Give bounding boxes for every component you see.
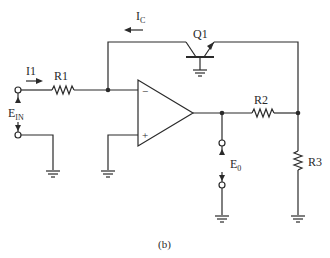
ic-current-label: IC — [136, 9, 145, 25]
svg-text:EIN: EIN — [8, 106, 24, 122]
feedback-wire — [108, 42, 298, 113]
circuit-diagram: IC Q1 I1 R1 EIN — [0, 0, 330, 258]
resistor-r2: R2 — [252, 93, 298, 117]
figure-caption: (b) — [158, 238, 171, 251]
q1-label: Q1 — [193, 27, 208, 41]
r1-label: R1 — [54, 69, 68, 83]
ein-voltage-label: EIN — [8, 93, 53, 170]
ground-icon — [215, 216, 229, 222]
svg-text:E0: E0 — [230, 157, 241, 173]
svg-text:IC: IC — [136, 9, 145, 25]
ground-icon — [291, 216, 305, 222]
plus-input-wire — [108, 135, 138, 170]
op-amp: − + — [138, 80, 193, 146]
svg-text:I1: I1 — [26, 64, 36, 78]
r3-label: R3 — [308, 155, 322, 169]
resistor-r3: R3 — [294, 113, 322, 215]
ground-icon — [46, 171, 60, 177]
e0-voltage-label: E0 — [219, 113, 241, 215]
i1-current-label: I1 — [26, 64, 43, 84]
input-terminal — [15, 87, 21, 93]
junction-node — [106, 88, 111, 93]
ground-icon — [101, 171, 115, 177]
r2-label: R2 — [254, 93, 268, 107]
transistor-q1: Q1 — [186, 27, 214, 76]
ic-arrow-icon — [124, 27, 143, 33]
minus-input-label: − — [142, 85, 148, 97]
plus-input-label: + — [142, 129, 148, 141]
